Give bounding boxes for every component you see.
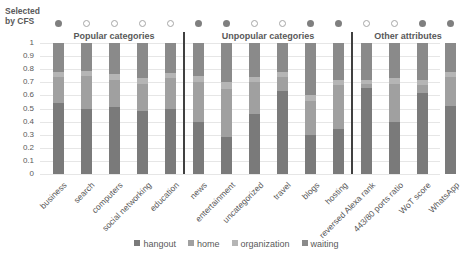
legend: hangouthomeorganizationwaiting xyxy=(0,239,473,249)
bar-segment-organization xyxy=(81,71,92,76)
bar-segment-organization xyxy=(249,77,260,82)
gridline xyxy=(40,109,440,110)
bar-segment-waiting xyxy=(53,43,64,72)
y-tick-label: 1 xyxy=(6,38,34,47)
bar-segment-waiting xyxy=(221,43,232,82)
x-tick-label: travel xyxy=(271,180,293,202)
gridline xyxy=(40,122,440,123)
cfs-unselected-dot xyxy=(251,20,258,27)
cfs-selected-dot xyxy=(447,20,454,27)
stacked-bar xyxy=(277,43,288,174)
legend-item-home: home xyxy=(188,239,220,249)
y-tick-label: 0.2 xyxy=(6,143,34,152)
bar-segment-organization xyxy=(53,72,64,77)
gridline xyxy=(40,95,440,96)
bar-segment-home xyxy=(389,84,400,122)
x-tick-label: blogs xyxy=(300,180,321,201)
bar-segment-hangout xyxy=(165,109,176,175)
stacked-bar xyxy=(193,43,204,174)
bar-segment-hangout xyxy=(109,107,120,174)
y-tick-label: 0.7 xyxy=(6,77,34,86)
bar-segment-hangout xyxy=(417,93,428,174)
gridline xyxy=(40,82,440,83)
bar-segment-organization xyxy=(137,78,148,83)
bar-segment-hangout xyxy=(81,109,92,175)
gridline xyxy=(40,161,440,162)
x-tick-label: business xyxy=(38,180,69,211)
cfs-unselected-dot xyxy=(83,20,90,27)
bar-segment-organization xyxy=(333,80,344,85)
bar-segment-home xyxy=(445,77,456,106)
bar-segment-organization xyxy=(389,78,400,83)
cfs-selected-dot xyxy=(223,20,230,27)
gridline xyxy=(40,148,440,149)
bar-segment-organization xyxy=(305,95,316,100)
stacked-bar xyxy=(137,43,148,174)
bar-segment-waiting xyxy=(193,43,204,76)
group-separator xyxy=(351,32,353,174)
bar-segment-waiting xyxy=(277,43,288,72)
y-tick-label: 0.3 xyxy=(6,130,34,139)
cfs-selected-dot xyxy=(419,20,426,27)
bar-segment-hangout xyxy=(53,103,64,174)
stacked-bar xyxy=(109,43,120,174)
bar-segment-waiting xyxy=(389,43,400,78)
legend-swatch xyxy=(232,240,238,246)
bar-segment-home xyxy=(109,80,120,108)
bar-segment-waiting xyxy=(361,43,372,80)
stacked-bar xyxy=(165,43,176,174)
bar-segment-organization xyxy=(109,74,120,79)
cfs-unselected-dot xyxy=(391,20,398,27)
stacked-bar xyxy=(445,43,456,174)
bar-segment-hangout xyxy=(249,114,260,174)
gridline xyxy=(40,174,440,175)
bar-segment-hangout xyxy=(193,122,204,174)
stacked-bar xyxy=(305,43,316,174)
bar-segment-home xyxy=(277,77,288,91)
bar-segment-home xyxy=(333,85,344,130)
bar-segment-home xyxy=(137,84,148,112)
cfs-selected-dot xyxy=(307,20,314,27)
legend-label: waiting xyxy=(311,239,339,249)
bar-segment-home xyxy=(165,78,176,108)
bar-segment-organization xyxy=(417,80,428,85)
x-tick-label: search xyxy=(72,180,97,205)
bar-segment-home xyxy=(53,77,64,103)
stacked-bar xyxy=(417,43,428,174)
group-separator xyxy=(183,32,185,174)
x-tick-label: hosting xyxy=(323,180,349,206)
bar-segment-hangout xyxy=(361,88,372,174)
legend-item-organization: organization xyxy=(232,239,290,249)
bar-segment-hangout xyxy=(305,135,316,174)
x-tick-label: news xyxy=(188,180,209,201)
bar-segment-waiting xyxy=(305,43,316,95)
bar-segment-hangout xyxy=(333,129,344,174)
bar-segment-organization xyxy=(165,73,176,78)
gridline xyxy=(40,135,440,136)
bar-segment-waiting xyxy=(249,43,260,77)
bar-segment-waiting xyxy=(417,43,428,80)
bar-segment-hangout xyxy=(389,122,400,174)
y-tick-label: 0.6 xyxy=(6,90,34,99)
bar-segment-home xyxy=(417,85,428,93)
bar-segment-waiting xyxy=(81,43,92,71)
bar-segment-home xyxy=(221,89,232,137)
bar-segment-organization xyxy=(221,82,232,89)
cfs-unselected-dot xyxy=(139,20,146,27)
bar-segment-organization xyxy=(361,80,372,84)
group-title: Popular categories xyxy=(44,31,184,41)
stacked-bar xyxy=(53,43,64,174)
legend-item-hangout: hangout xyxy=(134,239,176,249)
cfs-unselected-dot xyxy=(279,20,286,27)
cfs-selected-dot xyxy=(55,20,62,27)
y-tick-label: 0.4 xyxy=(6,117,34,126)
bar-segment-hangout xyxy=(137,111,148,174)
bar-segment-waiting xyxy=(109,43,120,74)
cfs-selected-dot xyxy=(195,20,202,27)
bar-segment-waiting xyxy=(445,43,456,72)
bar-segment-organization xyxy=(445,72,456,77)
bar-segment-hangout xyxy=(221,137,232,174)
bar-segment-home xyxy=(249,82,260,113)
cfs-unselected-dot xyxy=(363,20,370,27)
bar-segment-home xyxy=(193,82,204,121)
